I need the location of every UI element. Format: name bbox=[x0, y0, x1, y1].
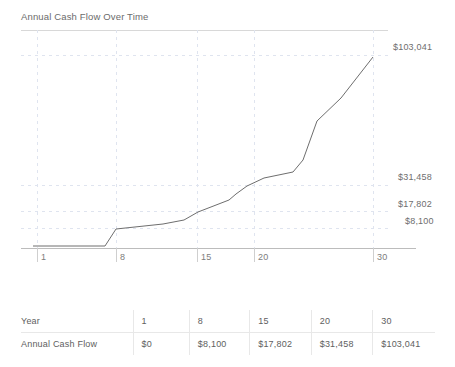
x-tick-label-1: 1 bbox=[41, 252, 46, 262]
value-label-17802: $17,802 bbox=[398, 199, 432, 209]
vertical-gridlines bbox=[38, 30, 374, 248]
value-label-31458: $31,458 bbox=[398, 172, 432, 182]
chart-plot-area bbox=[0, 0, 455, 290]
x-tick-label-8: 8 bbox=[120, 252, 125, 262]
cell-year-1: 1 bbox=[133, 310, 189, 333]
cell-cash-flow-1: $0 bbox=[133, 333, 189, 356]
cash-flow-chart: Annual Cash Flow Over Time bbox=[0, 0, 455, 290]
x-tick-label-20: 20 bbox=[258, 252, 268, 262]
table-row-year: Year 1 8 15 20 30 bbox=[21, 310, 435, 333]
cell-year-15: 15 bbox=[250, 310, 312, 333]
cell-year-30: 30 bbox=[373, 310, 435, 333]
cell-cash-flow-20: $31,458 bbox=[311, 333, 373, 356]
cash-flow-line bbox=[33, 57, 373, 246]
value-label-8100: $8,100 bbox=[405, 216, 434, 226]
table-row-cash-flow: Annual Cash Flow $0 $8,100 $17,802 $31,4… bbox=[21, 333, 435, 356]
horizontal-gridlines bbox=[21, 56, 388, 229]
x-tick-label-15: 15 bbox=[201, 252, 211, 262]
cash-flow-table: Year 1 8 15 20 30 Annual Cash Flow $0 $8… bbox=[21, 310, 435, 355]
cell-cash-flow-30: $103,041 bbox=[373, 333, 435, 356]
cell-cash-flow-15: $17,802 bbox=[250, 333, 312, 356]
cell-year-20: 20 bbox=[311, 310, 373, 333]
row-label-year: Year bbox=[21, 310, 133, 333]
value-label-103041: $103,041 bbox=[393, 42, 432, 52]
row-label-cash-flow: Annual Cash Flow bbox=[21, 333, 133, 356]
x-tick-label-30: 30 bbox=[377, 252, 387, 262]
cell-year-8: 8 bbox=[189, 310, 249, 333]
cell-cash-flow-8: $8,100 bbox=[189, 333, 249, 356]
